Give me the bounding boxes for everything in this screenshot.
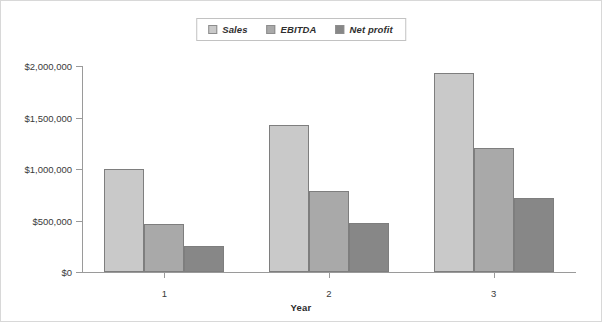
legend-entry[interactable]: Net profit [336,24,393,35]
legend-label: Net profit [350,24,393,35]
y-axis-tick [76,118,82,119]
legend-label: EBITDA [281,24,317,35]
bar[interactable] [349,223,389,272]
legend-entry[interactable]: EBITDA [267,24,317,35]
y-axis-tick-label: $500,000 [32,215,72,226]
y-axis-tick [76,272,82,273]
chart-legend: SalesEBITDANet profit [196,18,406,41]
bar[interactable] [434,73,474,272]
legend-swatch-icon [336,25,345,34]
y-axis-tick [76,66,82,67]
bar[interactable] [309,191,349,272]
x-axis-title: Year [1,302,601,313]
legend-entry[interactable]: Sales [208,24,247,35]
y-axis-tick-label: $2,000,000 [24,61,72,72]
bar-chart-figure: SalesEBITDANet profit Year $0$500,000$1,… [0,0,602,322]
x-axis-tick-label: 1 [162,288,167,299]
bar[interactable] [269,125,309,272]
bar[interactable] [474,148,514,272]
bar[interactable] [144,224,184,272]
legend-swatch-icon [208,25,217,34]
x-axis-tick [494,273,495,278]
legend-label: Sales [222,24,247,35]
x-axis-tick [329,273,330,278]
y-axis-tick [76,169,82,170]
y-axis-tick-label: $0 [61,267,72,278]
legend-swatch-icon [267,25,276,34]
y-axis-tick-label: $1,500,000 [24,112,72,123]
bar[interactable] [514,198,554,272]
plot-area [82,66,576,273]
y-axis-line [82,66,83,273]
x-axis-tick-label: 2 [326,288,331,299]
x-axis-tick-label: 3 [491,288,496,299]
y-axis-tick [76,221,82,222]
bar[interactable] [184,246,224,272]
y-axis-tick-label: $1,000,000 [24,164,72,175]
x-axis-tick [164,273,165,278]
bar[interactable] [104,169,144,272]
